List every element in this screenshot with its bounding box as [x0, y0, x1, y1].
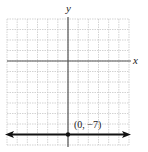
y-axis-label: y: [66, 3, 71, 14]
point-label: (0, −7): [74, 120, 101, 130]
point-marker: [66, 132, 70, 136]
x-axis-label: x: [133, 55, 138, 66]
